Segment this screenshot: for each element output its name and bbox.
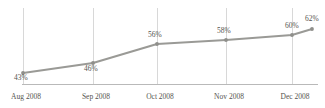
x-axis-label-aug-2008: Aug 2008 bbox=[11, 92, 41, 101]
data-label-dec-2008: 60% bbox=[285, 21, 299, 30]
x-axis-label-oct-2008: Oct 2008 bbox=[146, 92, 174, 101]
data-point-marker bbox=[290, 33, 294, 37]
data-label-final-point: 62% bbox=[305, 14, 319, 23]
plot-area: 43% 46% 56% 58% 60% 62% Aug 2008 Sep 200… bbox=[0, 0, 325, 108]
x-axis-label-dec-2008: Dec 2008 bbox=[281, 92, 310, 101]
line-chart: 43% 46% 56% 58% 60% 62% Aug 2008 Sep 200… bbox=[0, 0, 325, 108]
x-axis-label-sep-2008: Sep 2008 bbox=[82, 92, 110, 101]
data-label-aug-2008: 43% bbox=[14, 73, 28, 82]
data-point-marker bbox=[310, 27, 314, 31]
data-label-oct-2008: 56% bbox=[148, 30, 162, 39]
x-axis-label-nov-2008: Nov 2008 bbox=[214, 92, 244, 101]
data-point-marker bbox=[224, 38, 228, 42]
data-label-sep-2008: 46% bbox=[84, 64, 98, 73]
data-point-marker bbox=[155, 42, 159, 46]
data-label-nov-2008: 58% bbox=[217, 26, 231, 35]
series-polyline bbox=[23, 29, 312, 73]
